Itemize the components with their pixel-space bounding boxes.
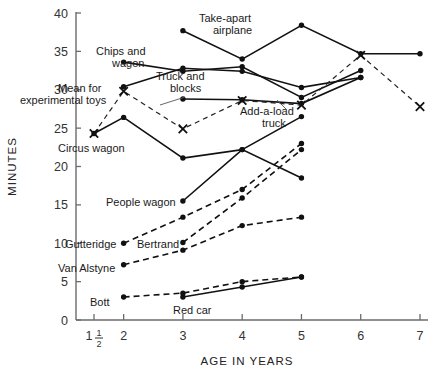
series-annotation: Gutteridge <box>65 238 116 250</box>
data-point-cross <box>416 102 424 110</box>
data-point <box>299 114 304 119</box>
series-annotation: People wagon <box>106 196 176 208</box>
series-annotation: Red car <box>173 304 212 316</box>
data-point <box>239 195 244 200</box>
x-tick-label: 112 <box>86 328 103 349</box>
series-annotation: Bott <box>90 296 110 308</box>
axes: 0510152025303540112234567AGE IN YEARSMIN… <box>6 7 428 368</box>
chart-container: 0510152025303540112234567AGE IN YEARSMIN… <box>0 0 435 372</box>
data-point <box>121 115 126 120</box>
svg-text:2: 2 <box>96 339 101 349</box>
data-point <box>180 214 185 219</box>
data-point <box>358 68 363 73</box>
series-annotation: Mean for <box>58 82 102 94</box>
data-point <box>239 223 244 228</box>
x-tick-label: 2 <box>120 329 127 343</box>
y-tick-label: 35 <box>54 45 68 59</box>
data-point <box>239 56 244 61</box>
data-point <box>299 141 304 146</box>
data-point <box>180 247 185 252</box>
svg-text:1: 1 <box>96 328 101 338</box>
series-annotation: truck <box>262 117 286 129</box>
data-point <box>299 95 304 100</box>
data-point <box>180 198 185 203</box>
y-tick-label: 20 <box>54 160 68 174</box>
data-point <box>358 75 363 80</box>
data-point <box>239 279 244 284</box>
data-point <box>299 274 304 279</box>
data-point <box>239 69 244 74</box>
data-point <box>239 284 244 289</box>
series-annotation: airplane <box>213 24 252 36</box>
series-annotation: Circus wagon <box>58 142 125 154</box>
y-tick-label: 25 <box>54 122 68 136</box>
data-point <box>239 64 244 69</box>
y-tick-label: 5 <box>61 275 68 289</box>
x-tick-label: 5 <box>298 329 305 343</box>
data-point <box>417 51 422 56</box>
series-annotation: Van Alstyne <box>58 262 115 274</box>
data-point <box>299 175 304 180</box>
series-line <box>124 144 302 244</box>
series-annotation: Bertrand <box>137 238 179 250</box>
series-annotation: experimental toys <box>20 94 107 106</box>
data-point <box>121 262 126 267</box>
data-point <box>121 294 126 299</box>
series-bott <box>121 274 304 299</box>
y-tick-label: 40 <box>54 7 68 21</box>
series-annotation: wagon <box>111 57 144 69</box>
data-point <box>121 241 126 246</box>
data-point-cross <box>179 125 187 133</box>
x-axis-title: AGE IN YEARS <box>201 355 294 367</box>
x-tick-label: 4 <box>239 329 246 343</box>
series-annotation: Chips and <box>96 45 146 57</box>
data-point <box>180 28 185 33</box>
series-annotation: blocks <box>170 82 202 94</box>
data-point <box>180 155 185 160</box>
series-bertrand <box>180 147 304 245</box>
svg-text:1: 1 <box>86 329 93 343</box>
series-annotation: Take-apart <box>199 12 251 24</box>
data-point <box>239 147 244 152</box>
y-tick-label: 15 <box>54 198 68 212</box>
series-line <box>124 277 302 297</box>
data-point <box>299 85 304 90</box>
x-tick-label: 3 <box>179 329 186 343</box>
data-point <box>180 240 185 245</box>
x-tick-label: 6 <box>357 329 364 343</box>
data-point-cross <box>90 129 98 137</box>
data-point <box>180 294 185 299</box>
data-point <box>299 147 304 152</box>
y-axis-title: MINUTES <box>6 137 18 196</box>
y-tick-label: 0 <box>61 314 68 328</box>
x-tick-label: 7 <box>417 329 424 343</box>
series-annotation: Truck and <box>156 70 205 82</box>
line-chart: 0510152025303540112234567AGE IN YEARSMIN… <box>0 0 435 372</box>
data-point <box>299 214 304 219</box>
data-point <box>299 23 304 28</box>
series-gutteridge <box>121 141 304 246</box>
data-point <box>239 187 244 192</box>
series-annotation: Add-a-load <box>240 105 294 117</box>
